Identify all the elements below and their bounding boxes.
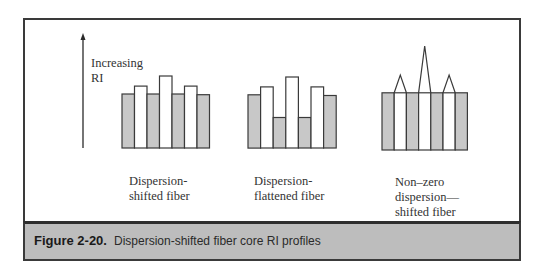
cladding-bar <box>197 95 210 148</box>
core-bar <box>419 93 431 150</box>
cladding-bar <box>455 93 467 150</box>
cladding-bar <box>248 95 261 148</box>
core-bar <box>160 76 173 148</box>
figure-number: Figure 2-20. <box>34 233 107 248</box>
cladding-bar <box>431 93 443 150</box>
profile-dispersion-shifted <box>122 76 210 148</box>
ri-peak <box>443 75 455 93</box>
figure-caption: Dispersion-shifted fiber core RI profile… <box>114 234 321 248</box>
caption-band: Figure 2-20. Dispersion-shifted fiber co… <box>23 221 521 261</box>
cladding-bar <box>298 118 311 149</box>
cladding-bar <box>273 118 286 149</box>
core-bar <box>394 93 406 150</box>
profile-label-dispersion-shifted: Dispersion- shifted fiber <box>129 174 190 204</box>
up-arrow-icon <box>81 33 86 40</box>
cladding-bar <box>382 93 394 150</box>
cladding-bar <box>147 94 160 148</box>
profile-label-non-zero-dispersion-shifted: Non–zero dispersion— shifted fiber <box>395 175 459 220</box>
ri-axis <box>81 33 86 148</box>
cladding-bar <box>122 94 135 148</box>
ri-peak <box>394 75 406 93</box>
core-bar <box>286 77 299 148</box>
cladding-bar <box>406 93 418 150</box>
core-bar <box>311 87 324 148</box>
profile-label-dispersion-flattened: Dispersion- flattened fiber <box>254 174 324 204</box>
profile-non-zero-dispersion-shifted <box>382 46 467 150</box>
core-bar <box>185 86 198 148</box>
axis-label: Increasing RI <box>91 56 143 86</box>
cladding-bar <box>324 96 337 149</box>
core-bar <box>443 93 455 150</box>
profiles-group <box>122 46 467 150</box>
ri-peak <box>419 46 431 93</box>
cladding-bar <box>172 94 185 148</box>
profile-dispersion-flattened <box>248 77 336 148</box>
core-bar <box>261 87 274 148</box>
core-bar <box>135 86 148 148</box>
